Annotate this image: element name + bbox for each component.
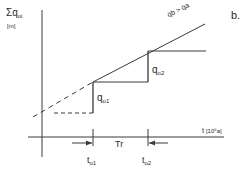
time-t01-label: to1 [87,156,96,166]
t01-subscript: o1 [90,160,97,166]
step-q02-label: qo2 [152,65,164,76]
y-axis-unit: [m] [7,23,15,29]
x-axis-unit: [10⁶a] [206,128,222,134]
t02-subscript: o2 [145,160,152,166]
y-axis-symbol: Σq [6,7,18,18]
arrow-t01-head [86,141,92,146]
q01-subscript: o1 [103,98,110,104]
x-axis-label: t [10⁶a] [202,127,222,134]
interval-label: Tr [115,140,123,149]
q02-subscript: o2 [158,70,165,76]
x-axis-symbol: t [202,127,204,134]
slope-line [93,24,205,82]
arrow-t02-head [149,141,155,146]
panel-label: b. [231,10,240,21]
y-axis-subscript: oi [18,13,23,19]
step-q01-label: qo1 [97,93,109,104]
time-t02-label: to2 [142,156,151,166]
y-axis-label: Σqoi [6,8,22,19]
